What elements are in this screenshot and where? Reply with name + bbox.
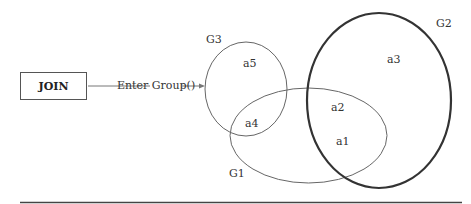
join-box: JOIN <box>20 72 87 100</box>
element-a4: a4 <box>245 118 259 129</box>
join-label: JOIN <box>39 80 69 93</box>
group-label-g3: G3 <box>206 34 222 45</box>
group-g2-ellipse <box>307 13 451 188</box>
element-a5: a5 <box>243 58 257 69</box>
element-a2: a2 <box>331 102 345 113</box>
enter-group-label: Enter Group() <box>117 80 195 91</box>
group-label-g1: G1 <box>229 168 245 179</box>
element-a3: a3 <box>387 54 401 65</box>
element-a1: a1 <box>336 136 350 147</box>
arrowhead-icon <box>199 84 205 89</box>
group-label-g2: G2 <box>436 18 452 29</box>
